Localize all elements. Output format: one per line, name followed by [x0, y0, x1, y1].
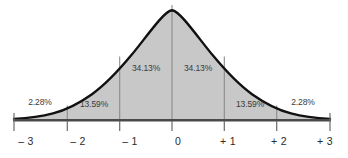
normal-distribution-chart: 2.28% 13.59% 34.13% 34.13% 13.59% 2.28% … [0, 0, 348, 158]
bell-curve-graphic [0, 0, 348, 158]
